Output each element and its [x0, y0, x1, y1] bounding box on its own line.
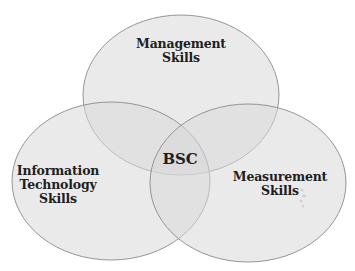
measurement-skills-label: Measurement Skills: [230, 170, 330, 198]
it-line-2: Technology: [10, 178, 106, 192]
measurement-line-2: Skills: [230, 184, 330, 198]
measurement-line-1: Measurement: [230, 170, 330, 184]
it-line-3: Skills: [10, 192, 106, 206]
management-line-1: Management: [131, 37, 231, 51]
it-skills-label: Information Technology Skills: [10, 164, 106, 206]
management-line-2: Skills: [131, 51, 231, 65]
bsc-intersection-label: BSC: [155, 150, 205, 168]
it-line-1: Information: [10, 164, 106, 178]
management-skills-label: Management Skills: [131, 37, 231, 65]
